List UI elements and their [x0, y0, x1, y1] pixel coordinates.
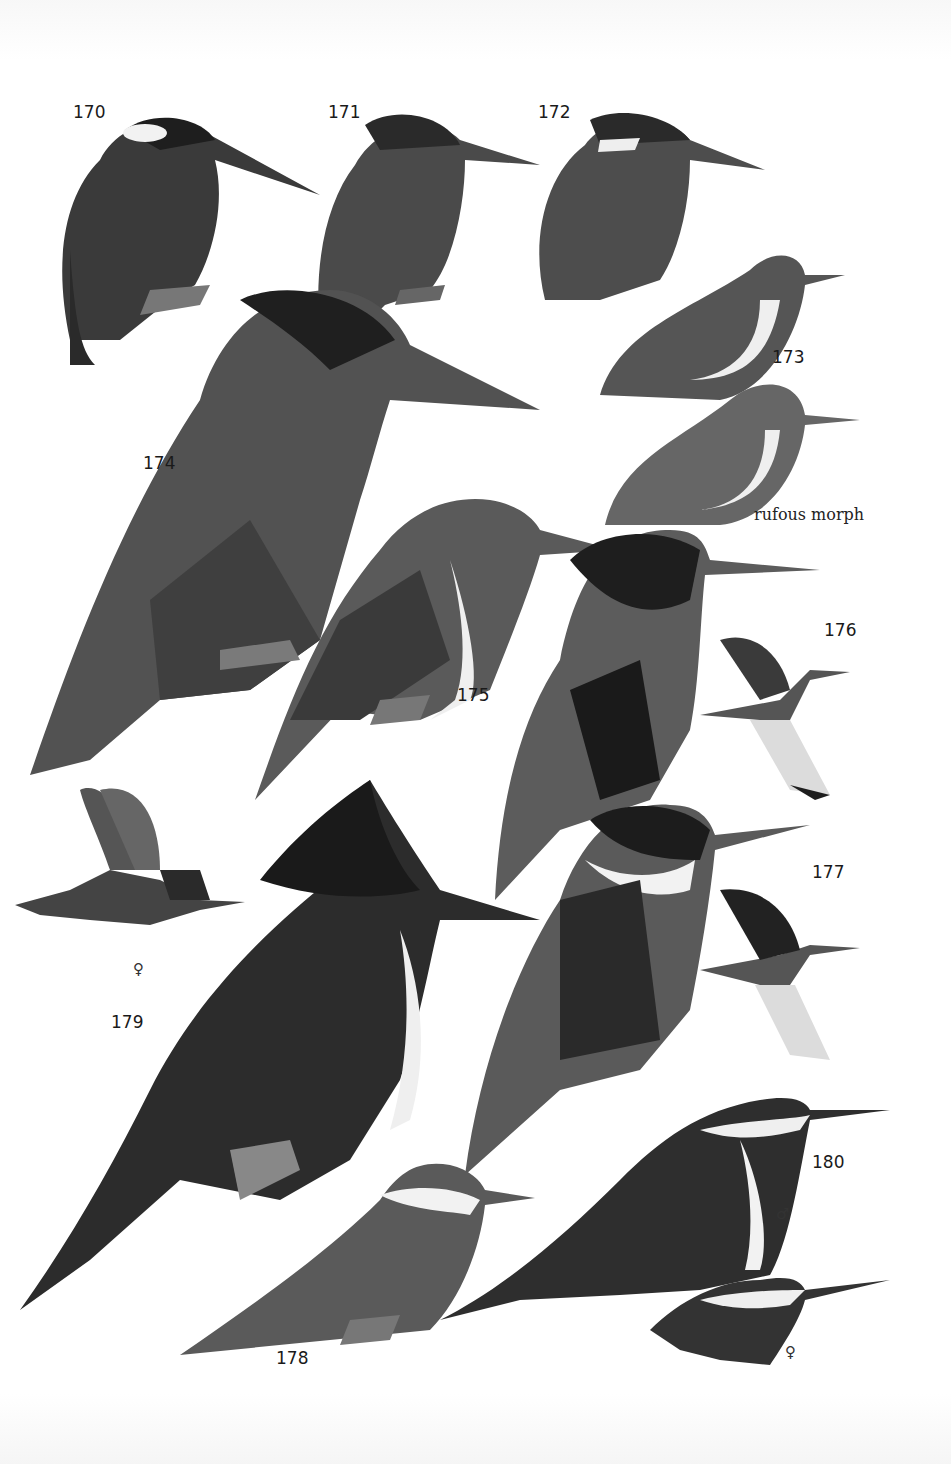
species-label-178: 178	[276, 1348, 308, 1368]
bird-173-rufous-morph-illustration	[605, 384, 860, 525]
field-guide-plate: 170 171 172 173 174 175 176 177 178 179 …	[0, 0, 951, 1464]
bird-178-illustration	[180, 1164, 535, 1355]
species-label-177: 177	[812, 862, 844, 882]
species-label-175: 175	[457, 685, 489, 705]
species-label-172: 172	[538, 102, 570, 122]
species-label-173: 173	[772, 347, 804, 367]
bird-177-flight-illustration	[700, 889, 860, 1060]
bird-179-female-flight-illustration	[15, 788, 245, 925]
species-label-174: 174	[143, 453, 175, 473]
species-label-176: 176	[824, 620, 856, 640]
species-label-171: 171	[328, 102, 360, 122]
bird-illustrations	[0, 0, 951, 1464]
bird-180-female-illustration	[650, 1278, 890, 1365]
species-label-180: 180	[812, 1152, 844, 1172]
female-symbol-179: ♀	[133, 960, 144, 978]
female-symbol-180: ♀	[785, 1343, 796, 1361]
species-label-170: 170	[73, 102, 105, 122]
bird-176-flight-illustration	[700, 637, 850, 800]
male-symbol-180: ♂	[776, 1205, 789, 1223]
bird-172-illustration	[539, 113, 765, 300]
species-label-179: 179	[111, 1012, 143, 1032]
rufous-morph-caption: rufous morph	[754, 505, 864, 524]
